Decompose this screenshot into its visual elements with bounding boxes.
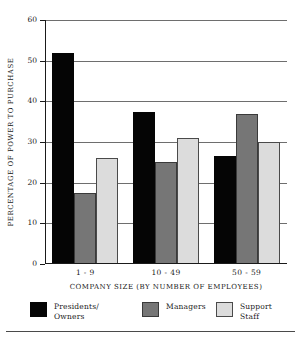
bar <box>155 162 177 264</box>
bar-chart-figure: 0102030405060 PERCENTAGE OF POWER TO PUR… <box>0 0 301 340</box>
legend-label: Support Staff <box>240 302 292 321</box>
x-axis-title: COMPANY SIZE (BY NUMBER OF EMPLOYEES) <box>45 283 287 292</box>
bar <box>74 193 96 264</box>
bar-series-container <box>45 20 287 264</box>
bar-group <box>52 20 118 264</box>
bar <box>96 158 118 264</box>
x-axis-line <box>45 263 287 264</box>
y-axis-title: PERCENTAGE OF POWER TO PURCHASE <box>5 20 17 264</box>
legend-swatch <box>30 302 47 317</box>
bar <box>236 114 258 264</box>
legend-swatch <box>142 302 159 317</box>
legend-item: Managers <box>142 302 206 317</box>
bar <box>133 112 155 265</box>
bottom-divider <box>6 331 295 332</box>
y-tick-mark <box>40 264 45 265</box>
plot-area <box>45 20 287 264</box>
legend-item: Presidents/ Owners <box>30 302 99 321</box>
legend-item: Support Staff <box>216 302 292 321</box>
bar-group <box>214 20 280 264</box>
bar <box>177 138 199 264</box>
x-tick-label: 50 - 59 <box>194 268 300 277</box>
legend-label: Presidents/ Owners <box>54 302 99 321</box>
chart-legend: Presidents/ OwnersManagersSupport Staff <box>30 302 292 326</box>
bar-group <box>133 20 199 264</box>
y-axis-line <box>45 20 46 264</box>
legend-swatch <box>216 302 233 317</box>
legend-label: Managers <box>166 302 206 312</box>
bar <box>258 142 280 264</box>
x-axis-ticks: 1 - 910 - 4950 - 59 <box>45 268 287 280</box>
bar <box>52 53 74 264</box>
bar <box>214 156 236 264</box>
